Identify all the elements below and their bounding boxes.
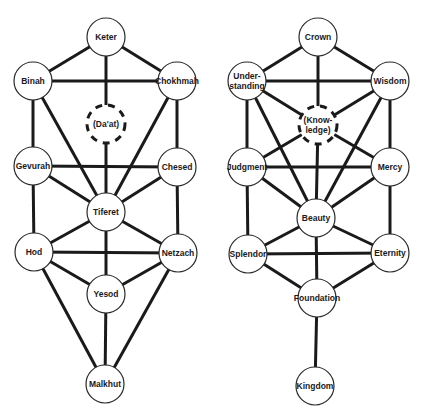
malkhut-label: Malkhut (89, 379, 121, 389)
wisdom-label: Wisdom (374, 76, 407, 86)
tiferet-label: Tiferet (93, 207, 119, 217)
understanding-label: standing (229, 81, 264, 91)
daat-label: (Da'at) (93, 119, 119, 129)
node-malkhut: Malkhut (86, 365, 124, 403)
splendor-label: Splendor (230, 249, 268, 259)
judgment-label: Judgment (227, 162, 268, 172)
node-beauty: Beauty (297, 199, 335, 237)
node-binah: Binah (14, 62, 52, 100)
node-understanding: Under-standing (228, 62, 266, 100)
tree-of-life-diagram: KeterBinahChokhmah(Da'at)GevurahChesedTi… (0, 0, 425, 416)
edge-gevurah-chesed (33, 166, 177, 167)
knowledge-label: ledge) (305, 125, 330, 135)
edge-splendor-eternity (248, 253, 390, 254)
hod-label: Hod (26, 247, 43, 257)
node-yesod: Yesod (87, 275, 125, 313)
eternity-label: Eternity (374, 248, 406, 258)
node-knowledge: (Know-ledge) (299, 106, 337, 144)
english-tree: CrownUnder-standingWisdom(Know-ledge)Jud… (227, 18, 409, 405)
chesed-label: Chesed (162, 162, 193, 172)
node-mercy: Mercy (371, 148, 409, 186)
yesod-label: Yesod (93, 289, 118, 299)
node-splendor: Splendor (229, 235, 267, 273)
node-netzach: Netzach (159, 234, 197, 272)
node-chokhmah: Chokhmah (155, 62, 199, 100)
gevurah-label: Gevurah (16, 161, 51, 171)
foundation-label: Foundation (294, 293, 340, 303)
hebrew-tree: KeterBinahChokhmah(Da'at)GevurahChesedTi… (14, 18, 199, 403)
node-gevurah: Gevurah (14, 147, 52, 185)
node-tiferet: Tiferet (87, 193, 125, 231)
mercy-label: Mercy (378, 162, 403, 172)
edge-binah-tiferet (33, 81, 106, 212)
node-chesed: Chesed (158, 148, 196, 186)
node-eternity: Eternity (371, 234, 409, 272)
kingdom-label: Kingdom (297, 381, 334, 391)
crown-label: Crown (305, 32, 331, 42)
binah-label: Binah (21, 76, 45, 86)
netzach-label: Netzach (162, 248, 195, 258)
node-keter: Keter (87, 18, 125, 56)
beauty-label: Beauty (302, 213, 331, 223)
node-daat: (Da'at) (87, 105, 125, 143)
edge-chokhmah-tiferet (106, 81, 177, 212)
understanding-label: Under- (233, 71, 261, 81)
node-kingdom: Kingdom (296, 367, 334, 405)
knowledge-label: (Know- (304, 115, 333, 125)
node-foundation: Foundation (294, 279, 340, 317)
node-crown: Crown (299, 18, 337, 56)
chokhmah-label: Chokhmah (155, 76, 199, 86)
node-judgment: Judgment (227, 148, 268, 186)
keter-label: Keter (95, 32, 117, 42)
node-hod: Hod (15, 233, 53, 271)
edge-hod-netzach (34, 252, 178, 253)
edge-wisdom-beauty (316, 81, 390, 218)
node-wisdom: Wisdom (371, 62, 409, 100)
